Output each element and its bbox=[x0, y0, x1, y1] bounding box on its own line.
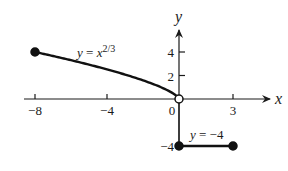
x-axis-label: x bbox=[274, 90, 282, 107]
closed-endpoint bbox=[31, 48, 39, 56]
piecewise-function-graph: −8−403 42−4 x y y = x2/3 y = −4 bbox=[0, 0, 288, 171]
y-tick-label: 4 bbox=[168, 45, 175, 60]
curve-label-exponent: 2/3 bbox=[102, 43, 115, 54]
y-tick-label: 2 bbox=[168, 69, 175, 84]
curve-x-two-thirds bbox=[35, 52, 179, 99]
curve-label-x23: y = x2/3 bbox=[75, 43, 115, 61]
curve-label-minus4: y = −4 bbox=[188, 127, 224, 142]
x-tick-label: −8 bbox=[28, 103, 42, 118]
x-ticks: −8−403 bbox=[28, 94, 236, 118]
closed-endpoint bbox=[229, 142, 237, 150]
x-tick-label: −4 bbox=[100, 103, 114, 118]
closed-endpoint bbox=[175, 142, 183, 150]
x-tick-label: 0 bbox=[169, 103, 176, 118]
x-tick-label: 3 bbox=[230, 103, 237, 118]
y-tick-label: −4 bbox=[160, 139, 174, 154]
y-axis-label: y bbox=[173, 8, 183, 26]
open-endpoint bbox=[175, 95, 183, 103]
